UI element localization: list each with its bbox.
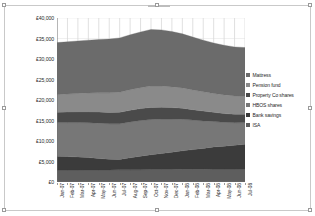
y-axis-tick-label: £25,000 bbox=[36, 77, 54, 83]
plot-area[interactable] bbox=[57, 18, 245, 182]
x-axis-tick-label: Sep-07 bbox=[143, 183, 148, 198]
chart-legend: MattressPension fundProperty Co sharesHB… bbox=[246, 70, 314, 130]
x-axis-tick bbox=[88, 183, 89, 185]
y-axis-tick-label: £40,000 bbox=[36, 15, 54, 21]
x-axis-tick-label: Jan-07 bbox=[60, 183, 65, 197]
x-axis-tick bbox=[57, 183, 58, 185]
y-axis-tick-label: £35,000 bbox=[36, 36, 54, 42]
legend-swatch-icon bbox=[246, 113, 250, 117]
y-axis-tick-label: £5,000 bbox=[39, 159, 54, 165]
x-axis-tick-label: Apr-07 bbox=[91, 183, 96, 197]
x-axis: Jan-07Feb-07Mar-07Apr-07May-07Jun-07Jul-… bbox=[57, 183, 245, 216]
stacked-area-svg bbox=[57, 18, 245, 182]
legend-item[interactable]: Property Co shares bbox=[246, 90, 314, 100]
y-axis-tick-label: £20,000 bbox=[36, 97, 54, 103]
x-axis-tick bbox=[99, 183, 100, 185]
x-axis-tick bbox=[172, 183, 173, 185]
x-axis-tick-label: Feb-07 bbox=[70, 183, 75, 198]
x-axis-tick-label: Mar-08 bbox=[206, 183, 211, 198]
resize-handle-top-left[interactable] bbox=[2, 3, 6, 7]
x-axis-tick-label: May-07 bbox=[101, 183, 106, 199]
legend-item[interactable]: Mattress bbox=[246, 70, 314, 80]
legend-item[interactable]: Pension fund bbox=[246, 80, 314, 90]
x-axis-tick bbox=[161, 183, 162, 185]
x-axis-tick bbox=[245, 183, 246, 185]
excel-chart-object[interactable]: £40,000£35,000£30,000£25,000£20,000£15,0… bbox=[0, 0, 315, 216]
x-axis-tick-label: Nov-07 bbox=[164, 183, 169, 198]
legend-item-label: Bank savings bbox=[253, 112, 282, 118]
x-axis-tick-label: Jun-08 bbox=[237, 183, 242, 197]
legend-swatch-icon bbox=[246, 93, 250, 97]
legend-item-label: ISA bbox=[253, 122, 261, 128]
x-axis-tick-label: Jan-08 bbox=[185, 183, 190, 197]
legend-item[interactable]: Bank savings bbox=[246, 110, 314, 120]
x-axis-tick-label: Mar-07 bbox=[80, 183, 85, 198]
legend-item-label: Property Co shares bbox=[253, 92, 294, 98]
x-axis-tick bbox=[203, 183, 204, 185]
x-axis-tick-label: Jul-07 bbox=[122, 183, 127, 196]
x-axis-tick bbox=[120, 183, 121, 185]
x-axis-tick bbox=[109, 183, 110, 185]
x-axis-tick bbox=[193, 183, 194, 185]
x-axis-tick-label: Oct-07 bbox=[154, 183, 159, 197]
x-axis-tick bbox=[78, 183, 79, 185]
legend-item[interactable]: ISA bbox=[246, 120, 314, 130]
x-axis-tick-label: Feb-08 bbox=[195, 183, 200, 198]
resize-handle-top-right[interactable] bbox=[308, 3, 312, 7]
y-axis-tick-label: £30,000 bbox=[36, 56, 54, 62]
x-axis-tick bbox=[67, 183, 68, 185]
x-axis-tick bbox=[151, 183, 152, 185]
y-axis: £40,000£35,000£30,000£25,000£20,000£15,0… bbox=[0, 18, 54, 182]
y-axis-tick-label: £10,000 bbox=[36, 138, 54, 144]
x-axis-tick-label: Apr-08 bbox=[216, 183, 221, 197]
x-axis-tick-label: Jun-07 bbox=[112, 183, 117, 197]
legend-swatch-icon bbox=[246, 73, 250, 77]
legend-item-label: Mattress bbox=[253, 72, 271, 78]
legend-swatch-icon bbox=[246, 123, 250, 127]
x-axis-tick-label: Jul-08 bbox=[248, 183, 253, 196]
legend-item-label: HBOS shares bbox=[253, 102, 282, 108]
legend-swatch-icon bbox=[246, 103, 250, 107]
x-axis-tick-label: May-08 bbox=[227, 183, 232, 199]
y-axis-tick-label: £15,000 bbox=[36, 118, 54, 124]
legend-swatch-icon bbox=[246, 83, 250, 87]
resize-handle-bottom-right[interactable] bbox=[308, 208, 312, 212]
legend-item-label: Pension fund bbox=[253, 82, 281, 88]
selection-handle-bar bbox=[148, 5, 170, 7]
y-axis-tick-label: £0 bbox=[48, 179, 54, 185]
x-axis-tick bbox=[214, 183, 215, 185]
x-axis-tick bbox=[182, 183, 183, 185]
area-series[interactable] bbox=[57, 169, 245, 182]
legend-item[interactable]: HBOS shares bbox=[246, 100, 314, 110]
x-axis-tick-label: Dec-07 bbox=[174, 183, 179, 198]
resize-handle-bottom-left[interactable] bbox=[2, 208, 6, 212]
x-axis-tick bbox=[224, 183, 225, 185]
x-axis-tick-label: Aug-07 bbox=[133, 183, 138, 198]
x-axis-tick bbox=[130, 183, 131, 185]
x-axis-tick bbox=[141, 183, 142, 185]
resize-handle-top-center[interactable] bbox=[155, 3, 159, 7]
x-axis-tick bbox=[235, 183, 236, 185]
